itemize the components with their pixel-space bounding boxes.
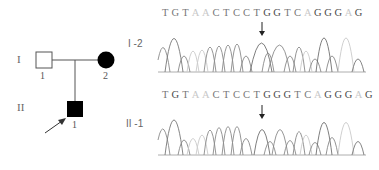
base: A: [354, 89, 364, 100]
base: C: [303, 89, 313, 100]
base: G: [313, 7, 323, 18]
base: G: [364, 89, 374, 100]
base: A: [191, 89, 201, 100]
individual-number-i1: 1: [40, 70, 45, 81]
individual-number-ii1: 1: [72, 119, 77, 130]
sequence-ii1: TGTAACTCCTGGGTCAGGGAG: [160, 89, 374, 100]
pedigree-male-unaffected-i1: [36, 52, 52, 68]
base: A: [201, 89, 211, 100]
base: A: [201, 7, 211, 18]
figure-graphics: [0, 0, 379, 170]
base: G: [170, 89, 180, 100]
variant-arrow-icon: [259, 105, 265, 119]
individual-number-i2: 2: [103, 70, 108, 81]
base: C: [242, 7, 252, 18]
base: A: [313, 89, 323, 100]
variant-arrow-icon: [259, 22, 265, 36]
chromatogram-trace-i2: [158, 38, 366, 72]
base: T: [282, 7, 292, 18]
base: T: [180, 89, 190, 100]
base: T: [221, 7, 231, 18]
base: A: [191, 7, 201, 18]
base: G: [272, 7, 282, 18]
base: T: [160, 7, 170, 18]
base: C: [211, 89, 221, 100]
base: A: [303, 7, 313, 18]
base: T: [292, 89, 302, 100]
pedigree-female-affected-i2: [98, 52, 115, 69]
base: T: [252, 89, 262, 100]
base: A: [343, 7, 353, 18]
base: G: [282, 89, 292, 100]
base: G: [323, 89, 333, 100]
base: T: [160, 89, 170, 100]
base: T: [180, 7, 190, 18]
base: C: [292, 7, 302, 18]
base: G: [323, 7, 333, 18]
generation-label-i: I: [17, 53, 21, 65]
sample-label-i2: I -2: [128, 38, 142, 49]
sample-label-ii1: II -1: [126, 118, 143, 129]
base: G: [170, 7, 180, 18]
base: T: [252, 7, 262, 18]
base: C: [242, 89, 252, 100]
base: G: [343, 89, 353, 100]
base: C: [231, 7, 241, 18]
pedigree-male-affected-ii1: [67, 101, 83, 117]
sequence-i2: TGTAACTCCTGGTCAGGGAG: [160, 7, 364, 18]
base: C: [231, 89, 241, 100]
base: C: [211, 7, 221, 18]
base: G: [333, 7, 343, 18]
chromatogram-trace-ii1: [158, 120, 366, 155]
base: G: [262, 89, 272, 100]
base: T: [221, 89, 231, 100]
base: G: [262, 7, 272, 18]
base: G: [354, 7, 364, 18]
proband-arrow-icon: [45, 118, 66, 133]
base: G: [272, 89, 282, 100]
generation-label-ii: II: [17, 101, 24, 113]
base: G: [333, 89, 343, 100]
